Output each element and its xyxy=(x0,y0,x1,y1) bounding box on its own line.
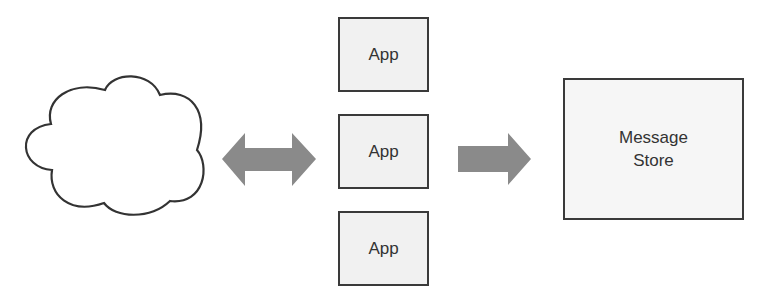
double-arrow-icon xyxy=(222,133,316,186)
app-node-label: App xyxy=(368,239,398,259)
app-node-1: App xyxy=(338,17,429,92)
right-arrow-icon xyxy=(458,133,531,185)
cloud-icon xyxy=(26,76,204,214)
app-node-2: App xyxy=(338,114,429,189)
message-store-label: Message Store xyxy=(619,126,688,172)
app-node-label: App xyxy=(368,45,398,65)
message-store-node: Message Store xyxy=(563,78,744,220)
app-node-label: App xyxy=(368,142,398,162)
app-node-3: App xyxy=(338,211,429,286)
